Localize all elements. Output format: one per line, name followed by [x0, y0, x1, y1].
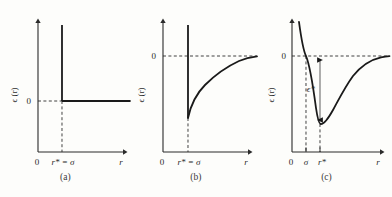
y-axis-label: ϵ (r): [266, 88, 276, 103]
lennard-jones-curve: [299, 22, 389, 124]
panel-a-hard-sphere: ϵ (r) 0 0 r* = σ r (a): [0, 0, 131, 197]
panel-a-plot: ϵ (r) 0 0 r* = σ r: [0, 0, 131, 197]
origin-label: 0: [289, 157, 294, 167]
potential-energy-figure: ϵ (r) 0 0 r* = σ r (a): [0, 0, 392, 197]
attractive-tail-curve: [188, 56, 257, 118]
rstar-tick-label: r*: [318, 157, 326, 167]
sigma-tick-label: r* = σ: [177, 157, 201, 167]
zero-tick-label: 0: [151, 51, 156, 61]
x-axis-label: r: [376, 157, 380, 167]
well-depth-label: ϵ*: [307, 84, 316, 94]
y-axis-label: ϵ (r): [9, 88, 19, 103]
panel-c-plot: ϵ* ϵ (r) 0 0 σ r* r: [261, 0, 392, 197]
panel-a-caption: (a): [0, 172, 131, 182]
sigma-tick-label: r* = σ: [52, 157, 76, 167]
x-axis-label: r: [244, 157, 248, 167]
y-axis-label: ϵ (r): [136, 88, 146, 103]
panel-b-square-well: ϵ (r) 0 0 r* = σ r (b): [131, 0, 262, 197]
panel-b-plot: ϵ (r) 0 0 r* = σ r: [131, 0, 262, 197]
zero-tick-label: 0: [26, 96, 31, 106]
zero-tick-label: 0: [282, 51, 287, 61]
sigma-tick-label: σ: [304, 157, 309, 167]
origin-label: 0: [159, 157, 164, 167]
x-axis-label: r: [119, 157, 123, 167]
panel-c-lennard-jones: ϵ* ϵ (r) 0 0 σ r* r (c): [261, 0, 392, 197]
panel-b-caption: (b): [131, 172, 262, 182]
panel-c-caption: (c): [261, 172, 392, 182]
origin-label: 0: [35, 157, 40, 167]
